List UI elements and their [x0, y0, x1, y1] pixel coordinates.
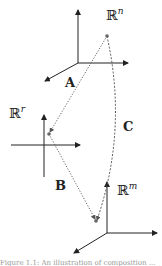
label-map-b: B [55, 179, 66, 192]
label-rn: ℝn [106, 7, 123, 22]
label-map-c: C [123, 120, 133, 133]
label-rr: ℝr [9, 105, 25, 120]
map-b-arrow [49, 134, 95, 219]
axes-rr [11, 115, 80, 177]
axes-rm [74, 182, 157, 253]
map-c-arrow [97, 36, 115, 220]
label-rm: ℝm [117, 182, 137, 197]
point-rm [94, 219, 98, 223]
figure-caption: Figure 1.1: An illustration of compositi… [0, 259, 162, 266]
diagram-canvas [0, 0, 162, 266]
label-map-a: A [65, 76, 75, 89]
point-rr [47, 132, 51, 136]
point-rn [105, 34, 109, 38]
